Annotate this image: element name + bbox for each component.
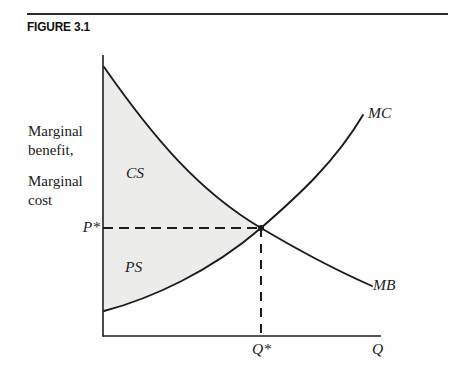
p-star-label: P* — [78, 219, 100, 235]
producer-surplus-label: PS — [125, 259, 142, 275]
mc-curve-label: MC — [368, 105, 391, 121]
y-axis-label-cost: Marginal cost — [28, 172, 83, 210]
q-star-label: Q* — [252, 341, 271, 357]
consumer-surplus-label: CS — [126, 165, 144, 181]
figure-3-1-panel: FIGURE 3.1 Marginal benefit, Marginal co… — [0, 0, 450, 378]
equilibrium-point — [258, 225, 264, 231]
mb-curve-label: MB — [373, 277, 395, 293]
x-axis-label: Q — [372, 341, 383, 357]
y-axis-label-benefit: Marginal benefit, — [28, 122, 83, 160]
